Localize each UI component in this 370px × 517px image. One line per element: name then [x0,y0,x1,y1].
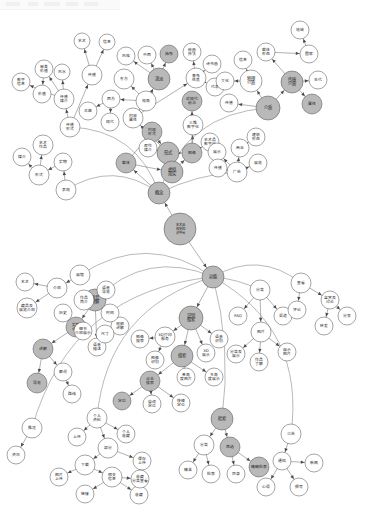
graph-node[interactable]: 图像识别 [146,351,164,369]
graph-node[interactable]: 分享 [338,307,356,325]
graph-node[interactable]: 自动定位 [143,395,161,413]
graph-node[interactable]: 传播媒介 [54,89,74,109]
graph-node[interactable]: 信息 [234,51,252,69]
graph-node[interactable]: 语音导览 [97,281,115,299]
graph-node[interactable]: 定位 [113,392,131,410]
graph-node[interactable]: 精准 [179,461,197,479]
graph-node[interactable]: 属性 [302,94,322,114]
graph-node[interactable]: 3D打印服务 [155,327,175,347]
graph-node[interactable]: 现代 [101,113,119,131]
graph-node[interactable]: 新闻 [305,454,323,472]
graph-node[interactable]: 文化 [216,72,234,90]
graph-node[interactable]: 检索 [202,465,220,483]
graph-node[interactable]: 媒介 [13,148,31,166]
graph-node[interactable]: 链接 [76,485,94,503]
graph-node[interactable]: 表现 [56,180,76,200]
graph-node[interactable]: 展示 [208,143,226,161]
graph-node[interactable]: 概念 [148,182,170,204]
graph-node[interactable]: FAQ [229,307,247,325]
graph-node[interactable]: 意象性质 [186,68,206,88]
graph-node[interactable]: 收藏 [130,486,148,504]
graph-node[interactable]: 实物 [54,153,72,171]
graph-node[interactable]: 撰写 [290,478,308,496]
graph-node[interactable]: 精确检索 [249,457,269,477]
graph-node[interactable]: 信息 [99,34,115,50]
graph-node[interactable]: 风格 [117,47,135,65]
graph-node[interactable]: 抽象 [160,45,178,63]
graph-node[interactable]: 内容形式 [142,122,162,142]
graph-node[interactable]: 鉴赏及讨论 [321,291,339,309]
graph-node[interactable]: 绘画技法 [183,43,201,61]
graph-node[interactable]: 筛选 [220,437,240,457]
graph-node[interactable]: 形式 [157,142,179,164]
graph-node[interactable]: 细节介绍展示 [74,322,92,340]
graph-node[interactable]: 尺寸 [96,325,114,343]
graph-node[interactable]: 分类 [194,435,214,455]
graph-node[interactable]: 解说 [54,363,72,381]
graph-node[interactable]: 展馆 [70,265,90,285]
graph-node[interactable]: 数字信息 [12,73,30,91]
graph-node[interactable]: 载体形态 [257,43,275,61]
graph-node[interactable]: 推送 [22,418,42,438]
graph-node[interactable]: 国家 [300,45,318,63]
graph-node[interactable]: 原作媒介 [139,139,157,157]
graph-node[interactable]: 古典 [79,102,97,120]
graph-node[interactable]: 点击搜索 [140,371,160,391]
graph-node[interactable]: 诗书画 [203,55,221,73]
graph-node[interactable]: 藏品及展览介绍 [17,298,37,318]
graph-node[interactable]: 图片上传 [50,468,68,486]
graph-node[interactable]: 图像搜索 [131,330,149,348]
graph-node[interactable]: 形式 [29,165,49,185]
graph-node[interactable]: 虚拟现实 [161,161,183,183]
graph-node[interactable]: 个人资料 [87,408,107,428]
graph-node[interactable]: 语音识别 [210,330,228,348]
graph-node[interactable]: 多角度展示 [205,368,223,386]
graph-node[interactable]: 查看 [291,273,311,293]
graph-node[interactable]: 评论 [288,301,306,319]
graph-node[interactable]: 图片 [251,322,271,342]
graph-node[interactable]: 目录 [227,465,245,483]
graph-node[interactable]: 检索 [211,408,233,430]
graph-node[interactable]: 导览 [27,373,47,393]
graph-node[interactable]: 收藏分类查看 [131,470,149,488]
graph-node[interactable]: 审美价值 [35,60,53,78]
graph-node[interactable]: 艺术品视觉知识平台 [164,213,196,245]
mind-map-graph[interactable]: 艺术品视觉知识平台概念功能传播艺术信息传播形式传播媒介风水价值审美价值数字信息形… [0,0,370,517]
graph-node[interactable]: 作品简介 [74,290,94,310]
graph-node[interactable]: 价值 [33,85,51,103]
graph-node[interactable]: 商业 [231,139,249,157]
graph-node[interactable]: 年代 [309,71,327,89]
graph-node[interactable]: 保存上传 [133,452,151,470]
graph-node[interactable]: 作品了解 [250,353,268,371]
graph-node[interactable]: 艺术作品 [33,135,53,155]
graph-node[interactable]: 传播形式 [60,117,80,137]
graph-node[interactable]: 转发 [315,317,333,335]
graph-node[interactable]: 广告 [227,162,247,182]
graph-node[interactable]: 各角度图片 [177,368,195,386]
graph-node[interactable]: 个人收藏 [117,425,135,443]
graph-node[interactable]: 视角 [136,91,156,111]
graph-node[interactable]: 传统介质 [281,71,303,93]
graph-node[interactable]: 艺术 [74,33,90,49]
graph-node[interactable]: 资讯 [7,446,25,464]
graph-node[interactable]: 传播 [220,94,238,112]
graph-node[interactable]: 路线 [63,385,81,403]
graph-node[interactable]: 分类及展示 [227,345,245,363]
graph-node[interactable]: 风水 [54,64,70,80]
graph-node[interactable]: 分类 [250,280,270,300]
graph-node[interactable]: 时间 [101,304,119,322]
graph-node[interactable]: 展示图片 [278,343,296,361]
graph-node[interactable]: 介质 [256,96,280,120]
graph-node[interactable]: 图像 [182,143,202,163]
graph-node[interactable]: 中西 [138,46,156,64]
graph-node[interactable]: 公告 [281,424,301,444]
graph-node[interactable]: 载体 [116,153,136,173]
graph-node[interactable]: 心得 [257,478,275,496]
graph-node[interactable]: 展览 [249,154,267,172]
graph-node[interactable]: 快速定位 [172,394,190,412]
graph-node[interactable]: 上传 [68,428,86,446]
graph-node[interactable]: 部分 [98,438,118,458]
graph-node[interactable]: 讲解 [33,339,53,359]
graph-node[interactable]: 历史 [54,304,72,322]
graph-node[interactable]: 介绍 [47,278,67,298]
